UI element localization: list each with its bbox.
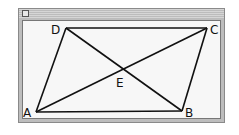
edge-ab [36, 111, 182, 112]
diagonal-bd [66, 28, 182, 111]
vertex-label-c: C [210, 23, 218, 37]
vertex-label-d: D [51, 23, 60, 37]
intersection-label-e: E [116, 76, 124, 90]
vertex-label-b: B [185, 106, 193, 120]
edge-bc [182, 28, 207, 111]
parallelogram-diagram: D C A B E [0, 0, 239, 135]
vertex-label-a: A [23, 106, 32, 120]
